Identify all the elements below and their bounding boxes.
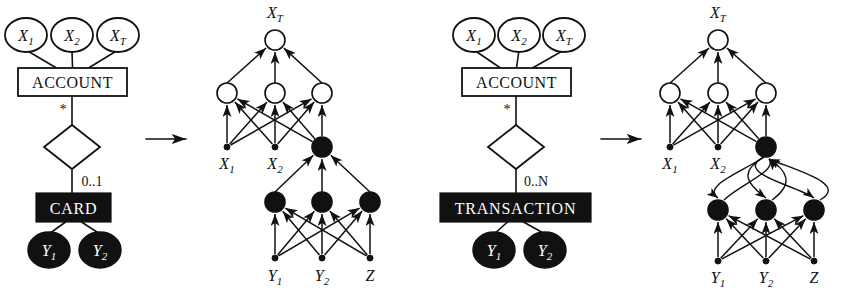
node-leaf-node-y1 — [715, 258, 721, 264]
node-hidden-node-h2 — [708, 83, 728, 103]
node-top-node-xt — [265, 30, 285, 50]
entity-label-entity-transaction: TRANSACTION — [455, 200, 577, 217]
label-input-1: X2 — [266, 155, 283, 175]
cardinality-bottom-label: 0..1 — [82, 174, 103, 189]
entity-label-entity-card: CARD — [50, 200, 98, 217]
edge-entity-to-mid-curved-2 — [755, 157, 814, 198]
edge-hidden-to-top-0 — [227, 48, 266, 83]
label-input-1: X2 — [709, 155, 726, 175]
node-hidden-node-h3 — [756, 83, 776, 103]
entity-label-entity-account: ACCOUNT — [32, 74, 113, 91]
label-leaf-2: Z — [810, 269, 820, 286]
node-mid-node-m3 — [804, 200, 824, 220]
entity-label-entity-account: ACCOUNT — [476, 74, 557, 91]
label-input-0: X1 — [661, 155, 677, 175]
edge-mid-to-entity-curved-0 — [724, 159, 770, 200]
node-hidden-node-h1 — [660, 83, 680, 103]
edge-hidden-to-top-0 — [670, 48, 709, 83]
edge-input0-to-hidden1 — [673, 102, 710, 144]
node-input-node-x1 — [224, 144, 230, 150]
svg-text:Z: Z — [810, 269, 820, 286]
attribute-connector — [533, 50, 565, 68]
svg-text:X1: X1 — [661, 155, 677, 175]
node-leaf-node-y2 — [319, 255, 325, 261]
label-leaf-1: Y2 — [759, 269, 774, 289]
edge-leaf2-to-mid1 — [774, 219, 811, 258]
svg-text:XT: XT — [266, 4, 284, 24]
edge-hidden-to-top-2 — [727, 48, 766, 83]
node-leaf-node-y2 — [763, 258, 769, 264]
svg-text:Y1: Y1 — [268, 267, 282, 287]
svg-text:X2: X2 — [709, 155, 726, 175]
edge-hidden-to-top-2 — [284, 48, 322, 83]
edge-leaf2-to-mid1 — [330, 211, 368, 255]
node-input-node-x1 — [667, 144, 673, 150]
node-top-node-xt — [708, 30, 728, 50]
node-mid-node-m2 — [312, 192, 332, 212]
label-input-0: X1 — [218, 155, 234, 175]
node-leaf-node-y1 — [272, 255, 278, 261]
node-hidden-node-h2 — [265, 83, 285, 103]
node-hidden-node-h3 — [312, 83, 332, 103]
label-top: XT — [266, 4, 284, 24]
attribute-connector — [474, 50, 501, 68]
node-mid-node-m2 — [756, 200, 776, 220]
label-top: XT — [709, 4, 727, 24]
node-input-node-transaction — [756, 137, 776, 157]
label-leaf-0: Y1 — [711, 269, 725, 289]
label-leaf-1: Y2 — [315, 267, 330, 287]
node-mid-node-m1 — [708, 200, 728, 220]
node-input-node-card — [312, 137, 332, 157]
edge-mid2-to-entity — [331, 155, 370, 192]
svg-text:X2: X2 — [266, 155, 283, 175]
cardinality-top-label: * — [504, 102, 511, 117]
node-hidden-node-h1 — [217, 83, 237, 103]
edge-leaf0-to-mid1 — [721, 219, 758, 258]
label-leaf-0: Y1 — [268, 267, 282, 287]
node-input-node-x2 — [715, 144, 721, 150]
edge-input0-to-hidden1 — [230, 102, 267, 144]
node-leaf-node-z — [811, 258, 817, 264]
cardinality-bottom-label: 0..N — [524, 174, 548, 189]
attribute-connector — [26, 50, 57, 68]
svg-text:Y2: Y2 — [759, 269, 774, 289]
node-input-node-x2 — [272, 144, 278, 150]
relationship-diamond — [44, 125, 100, 169]
relationship-diamond — [488, 125, 544, 169]
svg-text:Z: Z — [366, 267, 376, 284]
node-mid-node-m3 — [360, 192, 380, 212]
svg-text:Y2: Y2 — [315, 267, 330, 287]
svg-text:X1: X1 — [218, 155, 234, 175]
node-mid-node-m1 — [265, 192, 285, 212]
diagram-svg: X1X2XTACCOUNT*0..1CARDY1Y2XTX1X2Y1Y2ZX1X… — [0, 0, 841, 303]
figure-canvas: X1X2XTACCOUNT*0..1CARDY1Y2XTX1X2Y1Y2ZX1X… — [0, 0, 841, 303]
svg-text:Y1: Y1 — [711, 269, 725, 289]
node-leaf-node-z — [367, 255, 373, 261]
attribute-connector — [89, 50, 119, 68]
svg-text:XT: XT — [709, 4, 727, 24]
edge-leaf0-to-mid1 — [278, 211, 315, 255]
cardinality-top-label: * — [60, 102, 67, 117]
label-leaf-2: Z — [366, 267, 376, 284]
